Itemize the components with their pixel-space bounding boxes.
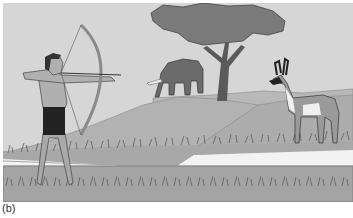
foreground-ground (3, 166, 353, 202)
figure-caption: (b) (2, 202, 15, 214)
archer-loincloth (43, 107, 65, 135)
illustration-scene (3, 3, 353, 202)
